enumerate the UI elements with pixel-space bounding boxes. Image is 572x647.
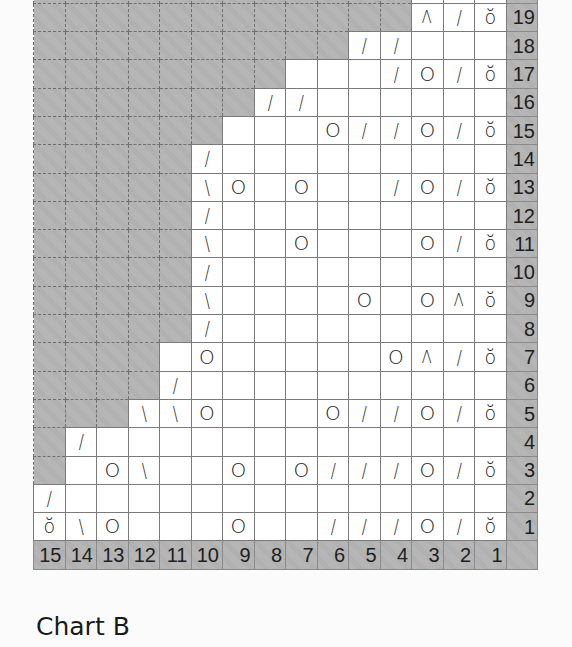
- twisted-stitch-icon: ŏ: [484, 121, 496, 139]
- stitch-cell: ŏ: [475, 3, 507, 31]
- stitch-cell: [223, 399, 255, 427]
- stitch-cell: O: [349, 286, 381, 314]
- stitch-cell: O: [97, 513, 129, 541]
- twisted-stitch-icon: ŏ: [484, 8, 496, 26]
- no-stitch-cell: [34, 371, 66, 399]
- stitch-cell: O: [286, 230, 318, 258]
- no-stitch-cell: [97, 258, 129, 286]
- twisted-stitch-icon: ŏ: [43, 517, 55, 535]
- stitch-cell: [443, 371, 475, 399]
- no-stitch-cell: [128, 371, 160, 399]
- stitch-cell: [223, 201, 255, 229]
- stitch-cell: [223, 484, 255, 512]
- stitch-cell: [317, 258, 349, 286]
- stitch-cell: [317, 343, 349, 371]
- yarn-over-icon: O: [419, 178, 435, 196]
- no-stitch-cell: [160, 201, 192, 229]
- stitch-cell: /: [349, 456, 381, 484]
- ssk-icon: \: [204, 178, 209, 196]
- no-stitch-cell: [97, 286, 129, 314]
- stitch-cell: [254, 484, 286, 512]
- stitch-cell: [380, 484, 412, 512]
- stitch-cell: [412, 88, 444, 116]
- no-stitch-cell: [286, 32, 318, 60]
- stitch-cell: [128, 513, 160, 541]
- stitch-cell: [349, 60, 381, 88]
- no-stitch-cell: [97, 399, 129, 427]
- no-stitch-cell: [160, 173, 192, 201]
- stitch-cell: [475, 484, 507, 512]
- stitch-cell: [443, 428, 475, 456]
- stitch-cell: [160, 513, 192, 541]
- stitch-cell: [223, 428, 255, 456]
- yarn-over-icon: O: [230, 517, 246, 535]
- stitch-cell: [160, 343, 192, 371]
- stitch-cell: [412, 201, 444, 229]
- twisted-stitch-icon: ŏ: [484, 461, 496, 479]
- no-stitch-cell: [65, 173, 97, 201]
- no-stitch-cell: [128, 3, 160, 31]
- no-stitch-cell: [65, 145, 97, 173]
- stitch-cell: [443, 32, 475, 60]
- no-stitch-cell: [65, 343, 97, 371]
- no-stitch-cell: [97, 343, 129, 371]
- stitch-cell: [223, 145, 255, 173]
- stitch-cell: /: [191, 258, 223, 286]
- no-stitch-cell: [223, 3, 255, 31]
- stitch-cell: [443, 258, 475, 286]
- stitch-cell: [349, 230, 381, 258]
- column-number-row: 151413121110987654321: [34, 541, 538, 569]
- ssk-icon: \: [78, 517, 83, 535]
- no-stitch-cell: [34, 315, 66, 343]
- yarn-over-icon: O: [325, 404, 341, 422]
- chart-row-13: \OO/O/ŏ13: [34, 173, 538, 201]
- stitch-cell: [286, 286, 318, 314]
- stitch-cell: Λ: [443, 286, 475, 314]
- stitch-cell: \: [160, 399, 192, 427]
- stitch-cell: [317, 60, 349, 88]
- stitch-cell: [128, 428, 160, 456]
- no-stitch-cell: [97, 173, 129, 201]
- stitch-cell: [317, 484, 349, 512]
- chart-page: Λ/ŏ19//18/O/ŏ17//16O//O/ŏ15/14\OO/O/ŏ13/…: [0, 0, 572, 647]
- no-stitch-cell: [65, 230, 97, 258]
- corner-cell: [506, 541, 538, 569]
- k2tog-icon: /: [330, 517, 335, 535]
- stitch-cell: O: [380, 343, 412, 371]
- k2tog-icon: /: [456, 517, 461, 535]
- twisted-stitch-icon: ŏ: [484, 291, 496, 309]
- k2tog-icon: /: [456, 348, 461, 366]
- row-number-label: 6: [506, 371, 538, 399]
- stitch-cell: ŏ: [475, 230, 507, 258]
- twisted-stitch-icon: ŏ: [484, 517, 496, 535]
- stitch-cell: [317, 428, 349, 456]
- stitch-cell: O: [286, 173, 318, 201]
- no-stitch-cell: [128, 258, 160, 286]
- stitch-cell: /: [160, 371, 192, 399]
- no-stitch-cell: [223, 32, 255, 60]
- stitch-cell: ŏ: [34, 513, 66, 541]
- chart-row-17: /O/ŏ17: [34, 60, 538, 88]
- stitch-cell: \: [191, 173, 223, 201]
- chart-row-4: /4: [34, 428, 538, 456]
- no-stitch-cell: [128, 343, 160, 371]
- stitch-cell: [254, 286, 286, 314]
- column-number-label: 11: [160, 541, 192, 569]
- chart-row-12: /12: [34, 201, 538, 229]
- stitch-cell: [128, 484, 160, 512]
- yarn-over-icon: O: [419, 65, 435, 83]
- row-number-label: 1: [506, 513, 538, 541]
- yarn-over-icon: O: [293, 234, 309, 252]
- stitch-cell: O: [223, 456, 255, 484]
- no-stitch-cell: [128, 145, 160, 173]
- no-stitch-cell: [160, 116, 192, 144]
- no-stitch-cell: [65, 60, 97, 88]
- no-stitch-cell: [34, 456, 66, 484]
- stitch-cell: [349, 428, 381, 456]
- column-number-label: 7: [286, 541, 318, 569]
- stitch-cell: O: [286, 456, 318, 484]
- stitch-cell: [160, 484, 192, 512]
- row-number-label: 14: [506, 145, 538, 173]
- ssk-icon: \: [204, 291, 209, 309]
- double-decrease-icon: Λ: [422, 348, 432, 366]
